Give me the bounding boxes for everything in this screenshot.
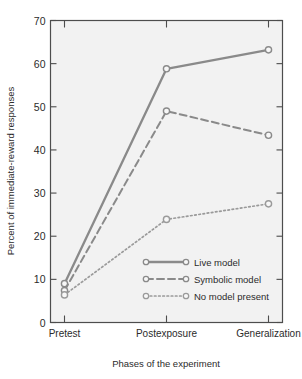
y-tick-label-30: 30	[34, 187, 46, 199]
legend-marker-2-1	[183, 293, 188, 298]
legend-marker-1-1	[183, 276, 188, 281]
y-axis-tick-labels: 010203040506070	[34, 15, 46, 329]
data-point-symbolic-model-1	[163, 108, 169, 114]
legend-marker-1-0	[143, 276, 148, 281]
data-point-symbolic-model-2	[265, 132, 271, 138]
legend-marker-0-0	[143, 259, 148, 264]
legend-label-2: No model present	[194, 291, 269, 302]
x-axis-tick-labels: PretestPostexposureGeneralization	[49, 328, 301, 339]
data-point-no-model-present-1	[163, 216, 169, 222]
y-tick-label-20: 20	[34, 230, 46, 242]
data-point-live-model-1	[163, 66, 169, 72]
x-tick-label-2: Generalization	[236, 328, 300, 339]
legend-marker-0-1	[183, 259, 188, 264]
y-tick-label-50: 50	[34, 101, 46, 113]
data-point-no-model-present-0	[61, 292, 67, 298]
y-tick-label-0: 0	[40, 317, 46, 329]
legend-label-1: Symbolic model	[194, 274, 261, 285]
y-tick-label-40: 40	[34, 144, 46, 156]
data-point-no-model-present-2	[265, 201, 271, 207]
y-axis-title: Percent of immediate-reward responses	[5, 87, 16, 256]
line-chart: 010203040506070 PretestPostexposureGener…	[0, 0, 302, 379]
legend-marker-2-0	[143, 293, 148, 298]
x-tick-label-0: Pretest	[49, 328, 81, 339]
legend-label-0: Live model	[194, 257, 240, 268]
y-tick-label-10: 10	[34, 273, 46, 285]
figure-container: 010203040506070 PretestPostexposureGener…	[0, 0, 302, 379]
y-tick-label-70: 70	[34, 15, 46, 27]
x-axis-title: Phases of the experiment	[112, 358, 220, 369]
y-tick-label-60: 60	[34, 58, 46, 70]
x-tick-label-1: Postexposure	[136, 328, 198, 339]
data-point-live-model-2	[265, 47, 271, 53]
